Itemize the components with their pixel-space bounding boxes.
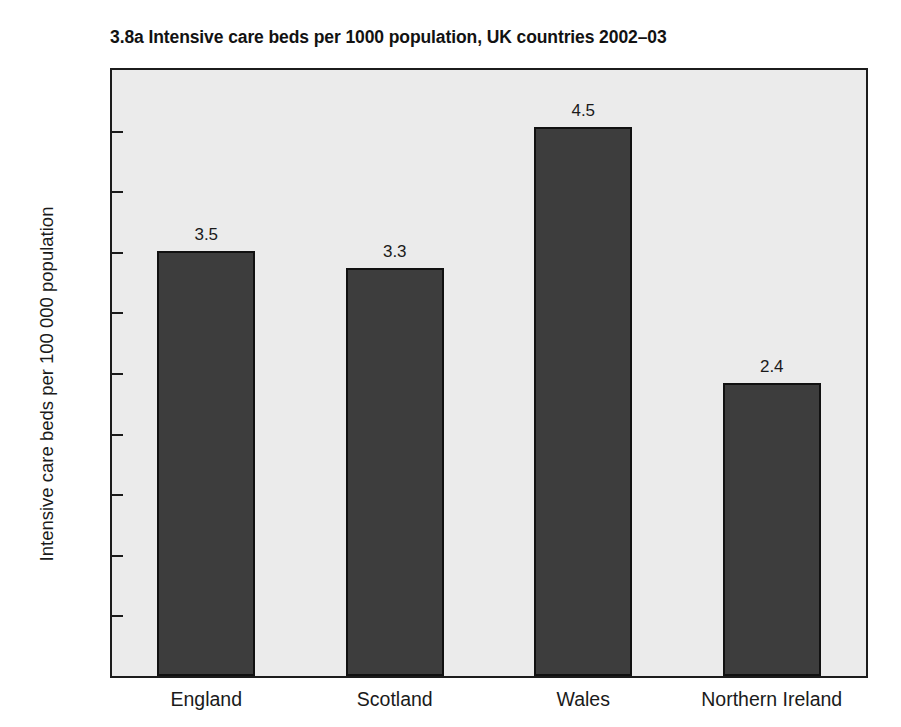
x-axis-label-northern-ireland: Northern Ireland [662, 688, 882, 711]
y-axis-tick-mark [112, 555, 123, 557]
y-axis-tick-mark [112, 494, 123, 496]
x-axis-label-england: England [96, 688, 316, 711]
bar-scotland [346, 268, 444, 676]
bar-northern-ireland [723, 383, 821, 676]
bar-value-label: 4.5 [533, 101, 633, 121]
y-axis-tick-mark [112, 252, 123, 254]
bar-chart-figure: 3.8a Intensive care beds per 1000 popula… [0, 0, 901, 727]
y-axis-tick-mark [112, 434, 123, 436]
y-axis-tick-mark [112, 191, 123, 193]
bar-value-label: 3.5 [156, 225, 256, 245]
plot-inner: 3.53.34.52.4 [112, 70, 866, 676]
bar-wales [534, 127, 632, 676]
y-axis-tick-mark [112, 312, 123, 314]
y-axis-title: Intensive care beds per 100 000 populati… [36, 124, 58, 644]
x-axis-label-scotland: Scotland [285, 688, 505, 711]
chart-title: 3.8a Intensive care beds per 1000 popula… [110, 27, 667, 48]
y-axis-tick-mark [112, 373, 123, 375]
bar-england [157, 251, 255, 676]
bar-value-label: 2.4 [722, 357, 822, 377]
x-axis-label-wales: Wales [473, 688, 693, 711]
bar-value-label: 3.3 [345, 242, 445, 262]
y-axis-tick-mark [112, 131, 123, 133]
plot-area: 3.53.34.52.4 [110, 68, 868, 678]
y-axis-tick-mark [112, 615, 123, 617]
